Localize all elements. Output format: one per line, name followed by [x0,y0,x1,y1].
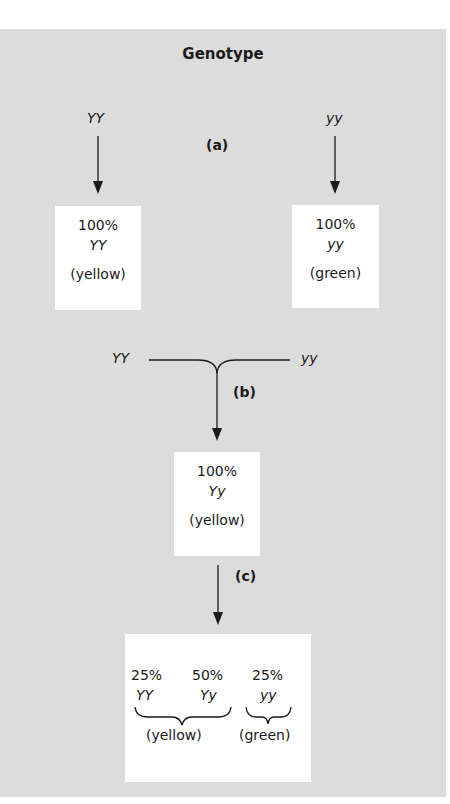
brace-layer [0,0,450,804]
f2-phenotype-yellow: (yellow) [146,727,202,743]
brace-yellow [135,707,231,725]
f2-phenotype-green: (green) [239,727,290,743]
brace-green [246,707,291,724]
